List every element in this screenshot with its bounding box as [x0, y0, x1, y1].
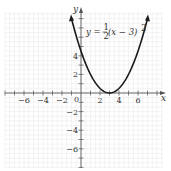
y-axis-arrow-icon — [79, 7, 83, 13]
equation-label: y = 1 2 (x − 3) 2 — [85, 22, 146, 41]
x-tick-label: −6 — [18, 96, 30, 105]
curve-arrow-left-icon — [69, 15, 74, 22]
x-tick-label: −2 — [56, 96, 68, 105]
y-tick-label: −4 — [66, 126, 78, 135]
x-tick-label: −4 — [37, 96, 49, 105]
equation-rhs: (x − 3) — [108, 27, 137, 37]
equation-lhs: y = — [85, 27, 101, 37]
curve-arrow-right-icon — [145, 15, 150, 22]
origin-label: 0 — [74, 95, 79, 104]
grid-lines — [5, 12, 163, 167]
y-axis-label: y — [72, 4, 79, 14]
y-tick-label: −2 — [66, 108, 78, 117]
x-axis-label: x — [161, 93, 166, 103]
x-tick-label: 6 — [135, 96, 140, 105]
y-tick-label: 4 — [73, 52, 78, 61]
equation-exponent: 2 — [141, 23, 146, 33]
y-tick-label: −6 — [66, 145, 78, 154]
x-tick-label: 4 — [116, 96, 121, 105]
parabola-chart: −6−4−2246−6−4−224 x y 0 y = 1 2 (x − 3) … — [0, 0, 171, 171]
y-tick-label: 2 — [73, 70, 78, 79]
x-tick-label: 2 — [97, 96, 102, 105]
